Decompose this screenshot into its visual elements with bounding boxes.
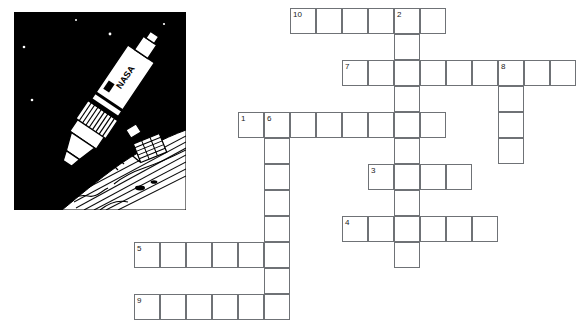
crossword-cell-r9-c4[interactable] [238, 242, 264, 268]
crossword-cell-r8-c5[interactable] [264, 216, 290, 242]
crossword-cell-r9-c1[interactable] [160, 242, 186, 268]
crossword-cell-r4-c5[interactable] [264, 112, 290, 138]
crossword-cell-r9-c10[interactable] [394, 242, 420, 268]
crossword-cell-r8-c11[interactable] [420, 216, 446, 242]
crossword-cell-r0-c8[interactable] [342, 8, 368, 34]
crossword-cell-r9-c0[interactable] [134, 242, 160, 268]
crossword-cell-r9-c5[interactable] [264, 242, 290, 268]
crossword-cell-r2-c11[interactable] [420, 60, 446, 86]
crossword-cell-r10-c5[interactable] [264, 268, 290, 294]
crossword-cell-r8-c8[interactable] [342, 216, 368, 242]
crossword-cell-r5-c5[interactable] [264, 138, 290, 164]
crossword-cell-r7-c10[interactable] [394, 190, 420, 216]
crossword-cell-r4-c9[interactable] [368, 112, 394, 138]
crossword-cell-r4-c7[interactable] [316, 112, 342, 138]
crossword-cell-r8-c12[interactable] [446, 216, 472, 242]
crossword-cell-r6-c12[interactable] [446, 164, 472, 190]
crossword-cell-r4-c14[interactable] [498, 112, 524, 138]
crossword-cell-r7-c5[interactable] [264, 190, 290, 216]
crossword-cell-r2-c10[interactable] [394, 60, 420, 86]
crossword-cell-r2-c12[interactable] [446, 60, 472, 86]
crossword-cell-r6-c9[interactable] [368, 164, 394, 190]
crossword-cell-r11-c0[interactable] [134, 294, 160, 320]
crossword-cell-r0-c6[interactable] [290, 8, 316, 34]
crossword-cell-r4-c4[interactable] [238, 112, 264, 138]
crossword-cell-r2-c8[interactable] [342, 60, 368, 86]
crossword-cell-r5-c14[interactable] [498, 138, 524, 164]
crossword-cell-r2-c16[interactable] [550, 60, 576, 86]
crossword-cell-r4-c8[interactable] [342, 112, 368, 138]
crossword-cell-r0-c9[interactable] [368, 8, 394, 34]
crossword-cell-r8-c9[interactable] [368, 216, 394, 242]
crossword-cell-r11-c5[interactable] [264, 294, 290, 320]
crossword-cell-r8-c10[interactable] [394, 216, 420, 242]
crossword-cell-r2-c13[interactable] [472, 60, 498, 86]
crossword-cell-r6-c11[interactable] [420, 164, 446, 190]
crossword-cell-r5-c10[interactable] [394, 138, 420, 164]
crossword-cell-r11-c1[interactable] [160, 294, 186, 320]
crossword-cell-r3-c10[interactable] [394, 86, 420, 112]
crossword-cell-r0-c7[interactable] [316, 8, 342, 34]
crossword-cell-r4-c6[interactable] [290, 112, 316, 138]
crossword-cell-r2-c9[interactable] [368, 60, 394, 86]
crossword-cell-r11-c4[interactable] [238, 294, 264, 320]
crossword-cell-r2-c14[interactable] [498, 60, 524, 86]
crossword-cell-r9-c3[interactable] [212, 242, 238, 268]
crossword-cell-r8-c13[interactable] [472, 216, 498, 242]
crossword-cell-r11-c3[interactable] [212, 294, 238, 320]
crossword-cell-r2-c15[interactable] [524, 60, 550, 86]
crossword-cell-r0-c11[interactable] [420, 8, 446, 34]
crossword-cell-r3-c14[interactable] [498, 86, 524, 112]
crossword-cell-r4-c11[interactable] [420, 112, 446, 138]
crossword-cell-r4-c10[interactable] [394, 112, 420, 138]
crossword-cell-r9-c2[interactable] [186, 242, 212, 268]
crossword-cell-r6-c10[interactable] [394, 164, 420, 190]
crossword-cell-r0-c10[interactable] [394, 8, 420, 34]
crossword-cell-r1-c10[interactable] [394, 34, 420, 60]
crossword-cell-r11-c2[interactable] [186, 294, 212, 320]
crossword-cell-r6-c5[interactable] [264, 164, 290, 190]
